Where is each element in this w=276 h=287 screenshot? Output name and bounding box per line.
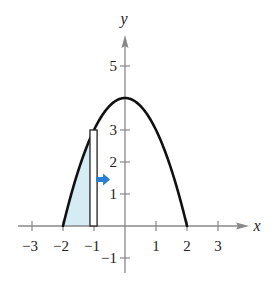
x-tick-label: 3: [214, 238, 222, 254]
y-tick-label: 5: [110, 58, 118, 74]
y-tick-label: 3: [110, 122, 118, 138]
representative-rectangle: [90, 130, 97, 226]
x-tick-label: −1: [84, 238, 100, 254]
y-axis-label: y: [118, 10, 128, 28]
y-tick-label: 1: [110, 186, 118, 202]
x-tick-label: 2: [183, 238, 191, 254]
tick-labels: −3−2−1123−11235xy: [22, 10, 261, 266]
x-tick-label: −2: [53, 238, 69, 254]
right-arrow-icon: [96, 174, 110, 186]
parabola-diagram: −3−2−1123−11235xy: [0, 0, 276, 287]
x-tick-label: −3: [22, 238, 38, 254]
y-tick-label: −1: [101, 250, 117, 266]
x-tick-label: 1: [152, 238, 160, 254]
y-tick-label: 2: [110, 154, 118, 170]
x-axis-label: x: [252, 217, 260, 234]
